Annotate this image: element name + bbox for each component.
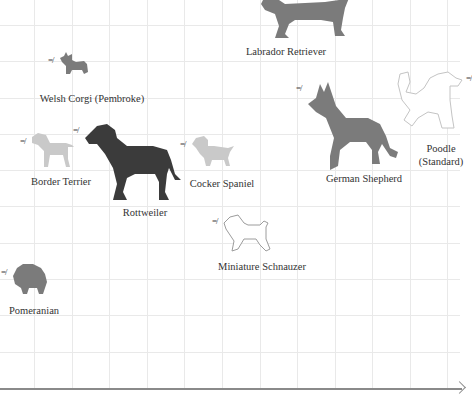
grid-line-vertical: [447, 0, 448, 389]
spaniel-silhouette-icon: [190, 136, 234, 168]
grid-line-vertical: [260, 0, 261, 389]
grid-line-horizontal: [0, 170, 460, 171]
breed-name: Border Terrier: [31, 175, 91, 188]
breed-name: Cocker Spaniel: [190, 177, 254, 190]
bark-mark-icon: =/: [73, 126, 79, 134]
schnauzer-silhouette-icon: [222, 213, 272, 255]
bark-mark-icon: =/: [180, 140, 186, 148]
grid-line-horizontal: [0, 352, 460, 353]
grid-line-vertical: [184, 0, 185, 389]
breed-label: Labrador Retriever: [246, 45, 326, 58]
breed-name: German Shepherd: [326, 172, 402, 185]
breed-label: German Shepherd: [326, 172, 402, 185]
pomeranian-silhouette-icon: [11, 264, 47, 294]
grid-line-vertical: [410, 0, 411, 389]
breed-label: Border Terrier: [31, 175, 91, 188]
bark-mark-icon: =/: [296, 84, 302, 92]
grid-line-horizontal: [0, 206, 460, 207]
bark-mark-icon: =/: [466, 74, 472, 82]
grid-line-horizontal: [0, 315, 460, 316]
grid-line-vertical: [335, 0, 336, 389]
labrador-silhouette-icon: [255, 0, 350, 38]
bark-mark-icon: =/: [1, 268, 7, 276]
breed-label: Cocker Spaniel: [190, 177, 254, 190]
terrier-silhouette-icon: [30, 133, 74, 169]
bark-mark-icon: =/: [20, 137, 26, 145]
grid-line-horizontal: [0, 279, 460, 280]
rottweiler-silhouette-icon: [83, 122, 181, 202]
corgi-silhouette-icon: [58, 52, 88, 74]
x-axis: [0, 388, 462, 390]
grid-line-vertical: [34, 0, 35, 389]
breed-name: Miniature Schnauzer: [218, 260, 306, 273]
breed-label: Welsh Corgi (Pembroke): [40, 92, 145, 105]
breed-label: Rottweiler: [123, 206, 167, 219]
breed-name-line2: (Standard): [419, 155, 463, 168]
shepherd-silhouette-icon: [306, 80, 401, 170]
breed-label: Miniature Schnauzer: [218, 260, 306, 273]
breed-name: Pomeranian: [9, 304, 59, 317]
grid-line-vertical: [372, 0, 373, 389]
breed-label: Pomeranian: [9, 304, 59, 317]
breed-name: Rottweiler: [123, 206, 167, 219]
breed-label: Poodle(Standard): [419, 142, 463, 168]
grid-line-horizontal: [0, 25, 460, 26]
bark-mark-icon: =/: [48, 56, 54, 64]
breed-name: Poodle: [419, 142, 463, 155]
breed-name: Labrador Retriever: [246, 45, 326, 58]
grid-line-vertical: [222, 0, 223, 389]
grid-line-vertical: [297, 0, 298, 389]
bark-mark-icon: =/: [212, 217, 218, 225]
x-axis-arrow-icon: [453, 381, 466, 394]
poodle-silhouette-icon: [392, 70, 464, 130]
breed-name: Welsh Corgi (Pembroke): [40, 92, 145, 105]
